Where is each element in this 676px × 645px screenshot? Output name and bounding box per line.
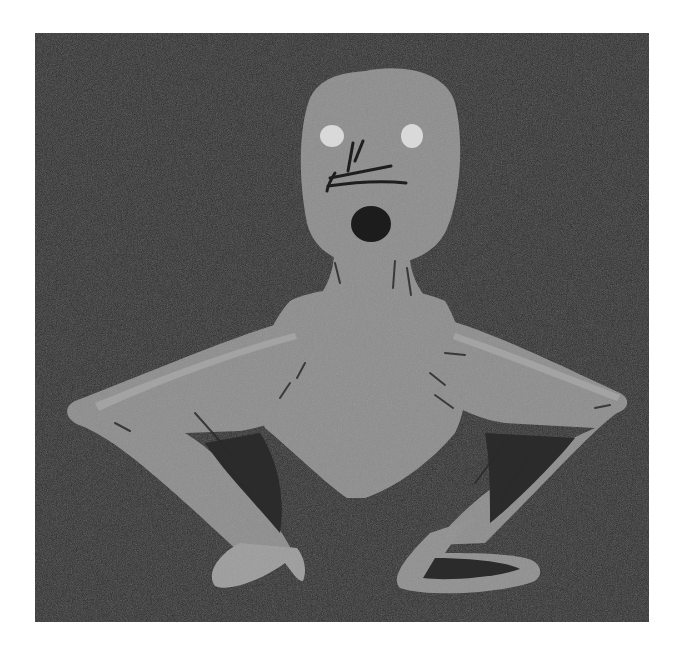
artwork-canvas [35, 33, 649, 622]
figure-illustration [35, 33, 649, 622]
mouth [351, 206, 391, 242]
right-eye [401, 124, 423, 148]
left-eye [320, 125, 344, 147]
